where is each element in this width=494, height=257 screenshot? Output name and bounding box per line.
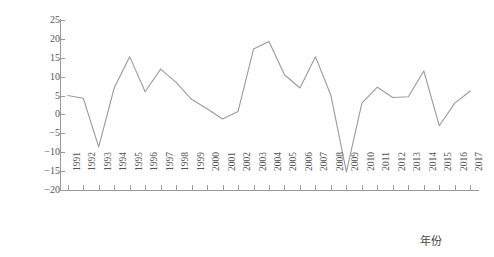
x-tick-label: 2000 bbox=[211, 152, 221, 196]
x-tick-label: 1993 bbox=[103, 152, 113, 196]
line-chart: 增加值增速/% 2520151050−5−10−15−20 1991199219… bbox=[0, 0, 494, 257]
x-tick-label: 2009 bbox=[350, 152, 360, 196]
y-tick-mark bbox=[61, 133, 65, 134]
y-tick-label: 5 bbox=[34, 91, 60, 101]
x-tick-mark bbox=[269, 185, 270, 190]
x-tick-mark bbox=[114, 185, 115, 190]
y-tick-mark bbox=[61, 171, 65, 172]
x-tick-label: 2014 bbox=[428, 152, 438, 196]
y-tick-mark bbox=[61, 190, 65, 191]
y-tick-label: 25 bbox=[34, 15, 60, 25]
x-tick-label: 1998 bbox=[180, 152, 190, 196]
x-axis-title: 年份 bbox=[420, 232, 442, 248]
x-tick-label: 1994 bbox=[118, 152, 128, 196]
y-tick-label: −10 bbox=[34, 147, 60, 157]
x-tick-mark bbox=[424, 185, 425, 190]
y-tick-label: 20 bbox=[34, 34, 60, 44]
x-tick-label: 2010 bbox=[366, 152, 376, 196]
y-tick-mark bbox=[61, 20, 65, 21]
y-tick-mark bbox=[61, 77, 65, 78]
x-tick-mark bbox=[130, 185, 131, 190]
x-tick-label: 2016 bbox=[459, 152, 469, 196]
x-tick-mark bbox=[439, 185, 440, 190]
x-tick-label: 2008 bbox=[335, 152, 345, 196]
x-tick-label: 1996 bbox=[149, 152, 159, 196]
x-tick-label: 2006 bbox=[304, 152, 314, 196]
y-tick-mark bbox=[61, 114, 65, 115]
x-tick-label: 2001 bbox=[227, 152, 237, 196]
y-tick-mark bbox=[61, 58, 65, 59]
x-tick-mark bbox=[362, 185, 363, 190]
y-tick-label: 10 bbox=[34, 72, 60, 82]
y-tick-label: −20 bbox=[34, 185, 60, 195]
x-tick-mark bbox=[254, 185, 255, 190]
y-tick-mark bbox=[61, 96, 65, 97]
x-tick-label: 1999 bbox=[196, 152, 206, 196]
x-tick-mark bbox=[161, 185, 162, 190]
x-tick-mark bbox=[377, 185, 378, 190]
x-tick-label: 2017 bbox=[474, 152, 484, 196]
x-tick-label: 2004 bbox=[273, 152, 283, 196]
x-tick-label: 2015 bbox=[443, 152, 453, 196]
x-tick-label: 2003 bbox=[258, 152, 268, 196]
x-tick-mark bbox=[223, 185, 224, 190]
x-tick-label: 1997 bbox=[165, 152, 175, 196]
x-tick-label: 1995 bbox=[134, 152, 144, 196]
y-tick-mark bbox=[61, 152, 65, 153]
x-tick-mark bbox=[408, 185, 409, 190]
x-tick-mark bbox=[68, 185, 69, 190]
x-tick-mark bbox=[99, 185, 100, 190]
y-axis-ticks: 2520151050−5−10−15−20 bbox=[28, 0, 60, 257]
x-tick-mark bbox=[470, 185, 471, 190]
x-tick-mark bbox=[315, 185, 316, 190]
x-tick-label: 1991 bbox=[72, 152, 82, 196]
x-tick-mark bbox=[455, 185, 456, 190]
x-tick-mark bbox=[346, 185, 347, 190]
x-tick-mark bbox=[192, 185, 193, 190]
x-tick-mark bbox=[145, 185, 146, 190]
x-tick-mark bbox=[331, 185, 332, 190]
x-tick-label: 1992 bbox=[87, 152, 97, 196]
x-tick-mark bbox=[176, 185, 177, 190]
y-tick-label: −15 bbox=[34, 166, 60, 176]
y-tick-label: 0 bbox=[34, 109, 60, 119]
y-tick-label: −5 bbox=[34, 128, 60, 138]
x-tick-mark bbox=[393, 185, 394, 190]
x-tick-mark bbox=[300, 185, 301, 190]
x-tick-label: 2007 bbox=[319, 152, 329, 196]
x-tick-label: 2005 bbox=[288, 152, 298, 196]
x-tick-label: 2002 bbox=[242, 152, 252, 196]
x-tick-mark bbox=[238, 185, 239, 190]
x-tick-mark bbox=[207, 185, 208, 190]
x-tick-label: 2011 bbox=[381, 152, 391, 196]
x-tick-mark bbox=[83, 185, 84, 190]
x-tick-mark bbox=[284, 185, 285, 190]
x-tick-label: 2013 bbox=[412, 152, 422, 196]
y-tick-label: 15 bbox=[34, 53, 60, 63]
y-tick-mark bbox=[61, 39, 65, 40]
x-tick-label: 2012 bbox=[397, 152, 407, 196]
